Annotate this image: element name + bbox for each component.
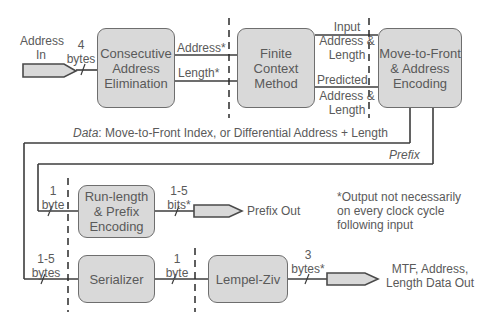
- block-consecutive-address-elimination: Consecutive Address Elimination: [97, 28, 175, 108]
- block-label: Lempel-Ziv: [216, 272, 280, 287]
- block-label: Finite Context Method: [238, 46, 314, 91]
- label-length-star: Length*: [178, 66, 219, 80]
- block-label: Consecutive Address Elimination: [98, 46, 174, 91]
- block-run-length-prefix: Run-length & Prefix Encoding: [78, 185, 155, 238]
- label-input-address-length: Input Address & Length: [318, 20, 376, 62]
- label-ser-in-width: 1-5 bytes: [30, 252, 62, 280]
- block-label: Serializer: [89, 272, 143, 287]
- label-footnote: *Output not necessarily on every clock c…: [337, 190, 472, 232]
- block-serializer: Serializer: [78, 255, 155, 303]
- label-rle-in-width: 1 byte: [40, 184, 66, 212]
- block-finite-context-method: Finite Context Method: [237, 28, 315, 108]
- label-address-in: Address In: [20, 34, 62, 62]
- label-in-width: 4 bytes: [66, 38, 96, 66]
- block-label: Run-length & Prefix Encoding: [79, 189, 154, 234]
- label-final-out: MTF, Address, Length Data Out: [380, 262, 480, 290]
- label-data: Data: Move-to-Front Index, or Differenti…: [73, 126, 388, 140]
- label-lz-out-width: 3 bytes*: [290, 248, 326, 276]
- block-move-to-front: Move-to-Front & Address Encoding: [378, 28, 462, 108]
- label-prefix: Prefix: [389, 148, 420, 162]
- label-predicted: Predicted: [317, 73, 368, 87]
- label-ser-out-width: 1 byte: [163, 252, 191, 280]
- label-address-star: Address*: [177, 41, 226, 55]
- label-prefix-out: Prefix Out: [247, 204, 300, 218]
- label-data-text: : Move-to-Front Index, or Differential A…: [98, 126, 388, 140]
- block-label: Move-to-Front & Address Encoding: [379, 46, 461, 91]
- label-data-italic: Data: [73, 126, 98, 140]
- block-lempel-ziv: Lempel-Ziv: [208, 255, 288, 303]
- label-rle-out-width: 1-5 bits*: [164, 184, 194, 212]
- label-predicted-address-length: Address & Length: [318, 89, 376, 117]
